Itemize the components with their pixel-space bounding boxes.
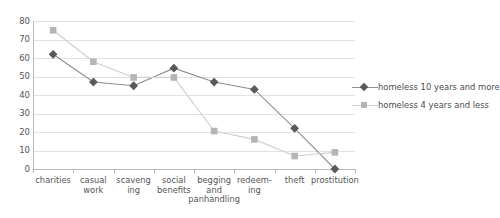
x-axis-tick [114, 169, 115, 173]
x-axis-tick [355, 169, 356, 173]
data-point-square [90, 58, 97, 65]
data-point-diamond [169, 64, 178, 73]
data-point-square [332, 149, 339, 156]
legend-marker [361, 102, 367, 108]
data-point-square [251, 136, 258, 143]
data-point-square [211, 128, 218, 135]
data-point-square [171, 74, 178, 81]
data-point-diamond [129, 81, 138, 90]
series-line [53, 30, 335, 156]
legend-diamond-icon [352, 81, 378, 93]
data-point-square [291, 153, 298, 160]
series-line [53, 54, 335, 169]
legend-square-icon [352, 99, 378, 111]
legend: homeless 10 years and morehomeless 4 yea… [352, 80, 488, 116]
data-point-diamond [210, 78, 219, 87]
legend-label: homeless 10 years and more [378, 82, 500, 92]
x-axis-tick [315, 169, 316, 173]
x-axis-tick [234, 169, 235, 173]
series-2 [50, 27, 338, 159]
data-point-diamond [89, 78, 98, 87]
x-axis-tick [154, 169, 155, 173]
data-point-diamond [49, 50, 58, 59]
legend-marker [360, 83, 368, 91]
legend-label: homeless 4 years and less [378, 100, 489, 110]
x-axis-tick [73, 169, 74, 173]
x-axis-tick [275, 169, 276, 173]
data-point-square [130, 74, 137, 81]
x-axis-tick [33, 169, 34, 173]
x-axis-tick [194, 169, 195, 173]
legend-item: homeless 4 years and less [352, 98, 488, 112]
legend-item: homeless 10 years and more [352, 80, 488, 94]
data-point-square [50, 27, 57, 34]
